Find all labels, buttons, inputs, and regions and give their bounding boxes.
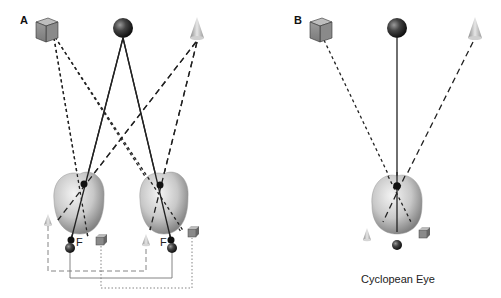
retinal-cube-left [96, 234, 107, 245]
panel-b [310, 17, 482, 250]
retinal-cube-cyclopean [419, 227, 430, 238]
retinal-sphere-right [167, 243, 177, 253]
retinal-cube-right [188, 226, 199, 237]
panel-a [36, 17, 204, 288]
fovea-right-label: F [160, 236, 167, 248]
sphere-object-b [387, 18, 407, 38]
retinal-sphere-left [65, 243, 75, 253]
panel-b-label: B [294, 14, 302, 26]
sphere-object-a [113, 18, 133, 38]
cone-object-b [468, 17, 482, 40]
nodal-point-left [81, 181, 88, 188]
fovea-left [68, 237, 75, 244]
nodal-point-right [157, 182, 164, 189]
sphere-correspondence-line [70, 253, 172, 278]
nodal-point-cyclopean [393, 182, 401, 190]
cone-correspondence-line [48, 226, 146, 271]
retinal-cone-left [44, 214, 52, 226]
cyclopean-eye-caption: Cyclopean Eye [361, 273, 435, 285]
retinal-cone-cyclopean [363, 228, 371, 241]
retinal-cone-right [142, 234, 150, 246]
fovea-right [168, 237, 175, 244]
cyclopean-eye [372, 172, 422, 234]
binocular-vision-diagram [0, 0, 501, 298]
cube-object-a [36, 18, 58, 42]
cube-object-b [310, 18, 332, 42]
fovea-left-label: F [76, 236, 83, 248]
retinal-sphere-cyclopean [392, 240, 402, 250]
cone-object-a [190, 17, 204, 40]
panel-a-label: A [20, 14, 28, 26]
